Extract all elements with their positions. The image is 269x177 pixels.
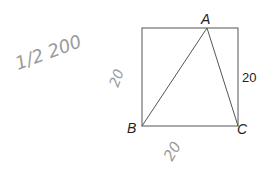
point-c-label: C <box>237 121 248 137</box>
side-length-label: 20 <box>242 70 256 85</box>
handwritten-half-200: 1/2 200 <box>12 30 84 73</box>
square <box>142 28 238 126</box>
segment-ab <box>142 28 207 126</box>
handwritten-left-20: 20 <box>106 67 127 89</box>
point-b-label: B <box>127 120 136 136</box>
segment-ac <box>207 28 238 126</box>
handwritten-bottom-20: 20 <box>160 138 185 164</box>
geometry-diagram: A B C 20 1/2 200 20 20 <box>0 0 269 177</box>
point-a-label: A <box>200 11 210 27</box>
